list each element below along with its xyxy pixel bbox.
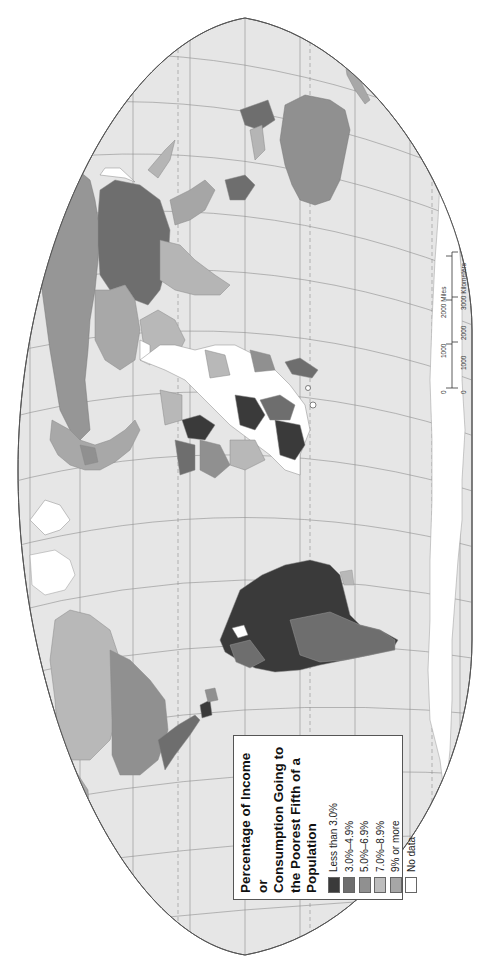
legend-item: Less than 3.0% bbox=[327, 742, 341, 893]
legend-swatch bbox=[405, 877, 417, 893]
scale-miles-1000: 1000 bbox=[440, 344, 447, 358]
legend-title-line: Population bbox=[304, 742, 321, 893]
legend-title-line: the Poorest Fifth of a bbox=[288, 742, 305, 893]
scale-bar-labels: 0 1000 2000 Miles 0 1000 2000 3000 Kilom… bbox=[420, 240, 480, 400]
legend-title: Percentage of Income or Consumption Goin… bbox=[238, 742, 321, 893]
scale-km-0: 0 bbox=[460, 390, 467, 394]
legend-title-line: Percentage of Income or bbox=[238, 742, 271, 893]
scale-km-1000: 1000 bbox=[460, 356, 467, 370]
legend-swatch bbox=[328, 877, 340, 893]
scale-miles-label: 2000 Miles bbox=[440, 287, 447, 318]
legend-label: 3.0%–4.9% bbox=[344, 821, 355, 872]
legend-item: No data bbox=[404, 742, 418, 893]
legend-label: 7.0%–8.9% bbox=[375, 821, 386, 872]
legend-item: 3.0%–4.9% bbox=[342, 742, 356, 893]
scale-km-label: 3000 Kilometers bbox=[460, 263, 467, 310]
legend-label: No data bbox=[406, 837, 417, 872]
scale-km-2000: 2000 bbox=[460, 326, 467, 340]
legend-label: Less than 3.0% bbox=[328, 803, 339, 872]
legend-item: 9% or more bbox=[389, 742, 403, 893]
legend-swatch bbox=[343, 877, 355, 893]
legend-swatch bbox=[390, 877, 402, 893]
legend-item: 5.0%–6.9% bbox=[358, 742, 372, 893]
legend-label: 9% or more bbox=[390, 820, 401, 872]
legend: Percentage of Income or Consumption Goin… bbox=[233, 735, 403, 900]
legend-label: 5.0%–6.9% bbox=[359, 821, 370, 872]
legend-swatch bbox=[374, 877, 386, 893]
legend-title-line: Consumption Going to bbox=[271, 742, 288, 893]
legend-swatch bbox=[359, 877, 371, 893]
scale-miles-0: 0 bbox=[440, 390, 447, 394]
legend-item: 7.0%–8.9% bbox=[373, 742, 387, 893]
